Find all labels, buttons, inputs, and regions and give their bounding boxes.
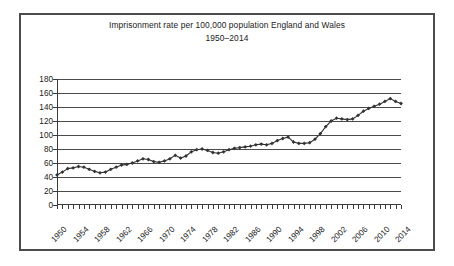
- x-tick-mark: [229, 205, 230, 209]
- x-tick-mark: [315, 205, 316, 209]
- x-tick-mark: [369, 205, 370, 209]
- data-series-line: [57, 79, 401, 205]
- y-tick-label: 180: [39, 75, 53, 84]
- series-marker: [216, 151, 220, 155]
- x-tick-mark: [277, 205, 278, 209]
- x-tick-mark: [197, 205, 198, 209]
- series-marker: [71, 166, 75, 170]
- y-tick-label: 20: [44, 187, 53, 196]
- series-marker: [120, 163, 124, 167]
- x-tick-mark: [202, 205, 203, 209]
- x-tick-label: 1998: [320, 212, 339, 231]
- series-marker: [259, 142, 263, 146]
- series-marker: [146, 158, 150, 162]
- x-tick-mark: [342, 205, 343, 209]
- x-tick-mark: [208, 205, 209, 209]
- x-tick-mark: [401, 205, 402, 209]
- x-tick-mark: [337, 205, 338, 209]
- y-tick-label: 0: [48, 201, 53, 210]
- series-marker: [243, 145, 247, 149]
- x-tick-label: 2006: [363, 212, 382, 231]
- x-tick-mark: [353, 205, 354, 209]
- x-tick-mark: [84, 205, 85, 209]
- x-tick-mark: [181, 205, 182, 209]
- x-tick-mark: [240, 205, 241, 209]
- series-marker: [141, 157, 145, 161]
- series-marker: [232, 146, 236, 150]
- x-tick-mark: [111, 205, 112, 209]
- series-marker: [302, 142, 306, 146]
- series-marker: [254, 143, 258, 147]
- series-marker: [345, 118, 349, 122]
- x-tick-mark: [143, 205, 144, 209]
- x-tick-mark: [175, 205, 176, 209]
- series-marker: [114, 165, 118, 169]
- y-tick-label: 160: [39, 89, 53, 98]
- x-tick-mark: [261, 205, 262, 209]
- series-marker: [335, 116, 339, 120]
- series-marker: [98, 171, 102, 175]
- x-tick-mark: [320, 205, 321, 209]
- x-tick-mark: [304, 205, 305, 209]
- series-marker: [275, 139, 279, 143]
- x-tick-mark: [385, 205, 386, 209]
- series-marker: [383, 100, 387, 104]
- plot-area: 020406080100120140160180 195019541958196…: [57, 79, 401, 205]
- x-tick-mark: [283, 205, 284, 209]
- series-marker: [109, 167, 113, 171]
- series-marker: [249, 144, 253, 148]
- y-tick-label: 100: [39, 131, 53, 140]
- plot-wrapper: 020406080100120140160180 195019541958196…: [57, 79, 401, 205]
- x-tick-mark: [132, 205, 133, 209]
- x-tick-mark: [251, 205, 252, 209]
- x-tick-mark: [380, 205, 381, 209]
- series-marker: [125, 163, 129, 167]
- x-tick-mark: [95, 205, 96, 209]
- x-tick-mark: [159, 205, 160, 209]
- chart-title-line-2: 1950–2014: [21, 32, 433, 45]
- x-tick-label: 1958: [105, 212, 124, 231]
- x-tick-mark: [294, 205, 295, 209]
- x-tick-mark: [396, 205, 397, 209]
- series-marker: [399, 102, 403, 106]
- x-tick-mark: [245, 205, 246, 209]
- x-tick-mark: [170, 205, 171, 209]
- x-tick-label: 1982: [234, 212, 253, 231]
- x-tick-mark: [122, 205, 123, 209]
- series-marker: [388, 97, 392, 101]
- series-marker: [136, 159, 140, 163]
- x-tick-mark: [89, 205, 90, 209]
- series-marker: [238, 146, 242, 150]
- x-tick-mark: [68, 205, 69, 209]
- x-tick-mark: [288, 205, 289, 209]
- x-tick-mark: [256, 205, 257, 209]
- x-tick-mark: [218, 205, 219, 209]
- x-tick-mark: [272, 205, 273, 209]
- series-polyline: [57, 99, 401, 175]
- series-marker: [281, 137, 285, 141]
- x-tick-mark: [374, 205, 375, 209]
- x-tick-label: 1966: [148, 212, 167, 231]
- series-marker: [270, 142, 274, 146]
- series-marker: [227, 148, 231, 152]
- series-marker: [130, 161, 134, 165]
- series-marker: [77, 165, 81, 169]
- x-tick-mark: [363, 205, 364, 209]
- y-tick-label: 60: [44, 159, 53, 168]
- series-marker: [157, 160, 161, 164]
- x-tick-mark: [299, 205, 300, 209]
- x-tick-mark: [224, 205, 225, 209]
- series-marker: [179, 156, 183, 160]
- x-tick-mark: [165, 205, 166, 209]
- x-tick-mark: [310, 205, 311, 209]
- series-marker: [265, 143, 269, 147]
- series-marker: [93, 170, 97, 174]
- x-tick-mark: [57, 205, 58, 209]
- x-tick-mark: [62, 205, 63, 209]
- x-tick-label: 2014: [406, 212, 425, 231]
- chart-figure: Imprisonment rate per 100,000 population…: [19, 13, 435, 251]
- series-marker: [82, 165, 86, 169]
- x-tick-label: 1974: [191, 212, 210, 231]
- series-marker: [372, 104, 376, 108]
- x-tick-mark: [213, 205, 214, 209]
